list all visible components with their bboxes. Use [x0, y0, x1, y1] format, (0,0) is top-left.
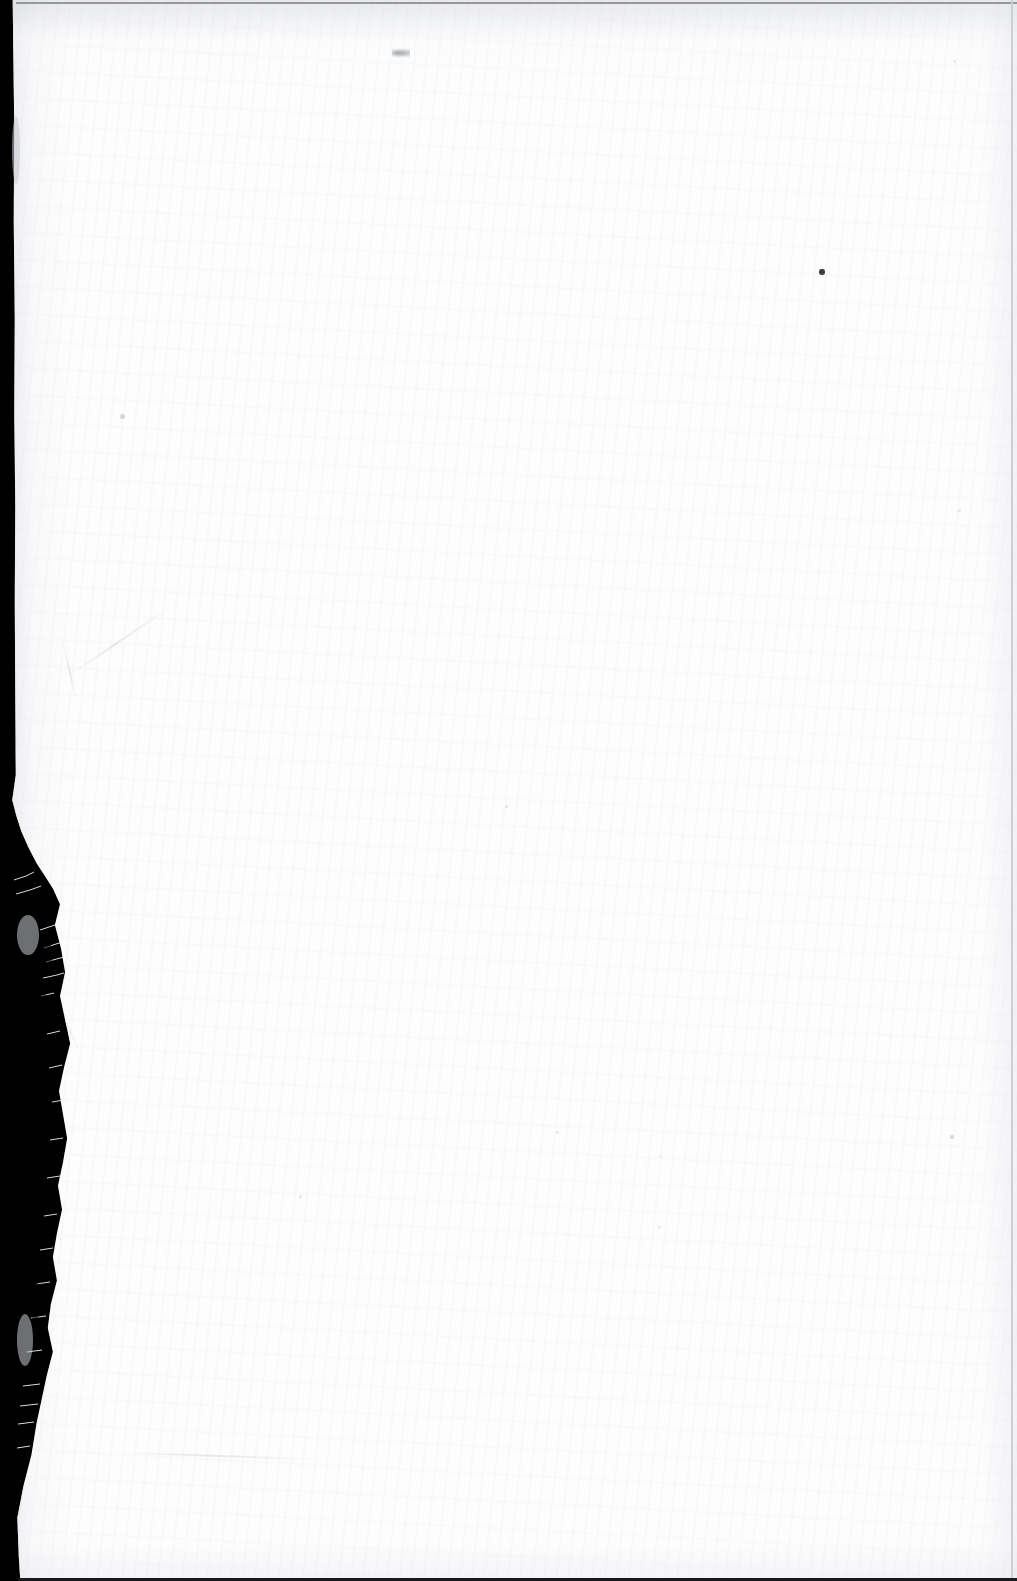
paper-shading-top — [0, 0, 1017, 90]
paper-sheet — [0, 0, 1017, 1581]
top-edge-rule — [16, 2, 1017, 4]
paper-crease — [49, 989, 81, 1053]
paper-shading-bottom — [0, 1511, 1017, 1581]
paper-crease — [63, 643, 77, 702]
right-edge-rule — [1011, 0, 1013, 1581]
paper-shading-left — [0, 0, 120, 1581]
paper-shading-right — [947, 0, 1017, 1581]
scanned-page-canvas — [0, 0, 1017, 1581]
page-body-text — [110, 120, 937, 1501]
